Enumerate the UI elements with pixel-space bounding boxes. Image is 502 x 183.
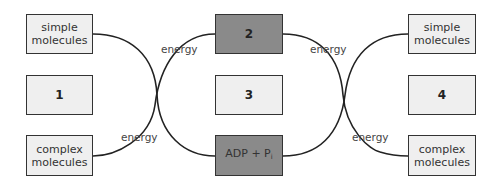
right-simple-molecules-label: simple molecules	[409, 21, 475, 47]
box-3: 3	[215, 75, 283, 115]
right-simple-molecules-box: simple molecules	[408, 14, 476, 54]
box-4: 4	[408, 75, 476, 115]
box-4-label: 4	[438, 89, 446, 102]
box-1-label: 1	[55, 89, 63, 102]
box-3-label: 3	[245, 89, 253, 102]
energy-label-bottom-left: energy	[121, 131, 158, 143]
left-complex-molecules-label: complex molecules	[27, 143, 92, 169]
adp-pi-box: ADP + Pi	[215, 135, 283, 176]
box-2: 2	[215, 14, 283, 54]
box-1: 1	[26, 75, 93, 115]
box-2-label: 2	[245, 28, 253, 41]
energy-label-top-left: energy	[161, 43, 198, 55]
left-complex-molecules-box: complex molecules	[26, 135, 93, 176]
energy-label-top-right: energy	[310, 43, 347, 55]
left-simple-molecules-box: simple molecules	[26, 14, 93, 54]
right-complex-molecules-box: complex molecules	[408, 135, 476, 176]
adp-pi-label: ADP + Pi	[225, 147, 272, 164]
left-simple-molecules-label: simple molecules	[27, 21, 92, 47]
right-complex-molecules-label: complex molecules	[409, 143, 475, 169]
energy-label-bottom-right: energy	[352, 131, 389, 143]
